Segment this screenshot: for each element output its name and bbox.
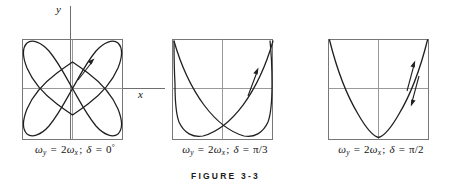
lissajous-panel-delta-pi-3: ωy = 2ωx; δ = π/3 xyxy=(150,0,300,194)
panel-caption-1: ωy = 2ωx; δ = 0° xyxy=(0,143,150,157)
caption-separator: ; xyxy=(78,143,83,155)
lissajous-figure-group: y x ωy = 2ωx; δ = 0° xyxy=(0,0,451,194)
caption-omega-x: 2ωx xyxy=(61,143,78,155)
lissajous-panel-delta-0: ωy = 2ωx; δ = 0° xyxy=(0,0,150,194)
caption-omega-x: 2ωx xyxy=(364,143,381,155)
figure-number-label: FIGURE 3-3 xyxy=(0,171,451,181)
caption-omega-y: ωy xyxy=(338,143,350,155)
lissajous-panel-delta-pi-2: ωy = 2ωx; δ = π/2 xyxy=(306,0,451,194)
caption-equals: = xyxy=(50,143,58,155)
caption-separator: ; xyxy=(381,143,386,155)
caption-equals-2: = xyxy=(398,143,406,155)
caption-equals: = xyxy=(197,143,205,155)
caption-omega-y: ωy xyxy=(35,143,47,155)
caption-delta-value: π/2 xyxy=(409,143,424,155)
caption-equals: = xyxy=(353,143,361,155)
plot-area-2 xyxy=(150,0,300,150)
direction-arrow-up-icon xyxy=(407,61,415,92)
caption-delta: δ xyxy=(86,143,91,155)
caption-delta: δ xyxy=(389,143,394,155)
caption-omega-x: 2ωx xyxy=(208,143,225,155)
panel-caption-3: ωy = 2ωx; δ = π/2 xyxy=(306,143,451,157)
plot-area-1 xyxy=(0,0,150,150)
plot-area-3 xyxy=(306,0,451,150)
caption-equals-2: = xyxy=(242,143,250,155)
caption-omega-y: ωy xyxy=(182,143,194,155)
caption-delta: δ xyxy=(233,143,238,155)
caption-delta-value: π/3 xyxy=(253,143,268,155)
caption-delta-value: 0° xyxy=(106,143,115,155)
caption-equals-2: = xyxy=(95,143,103,155)
caption-separator: ; xyxy=(225,143,230,155)
panel-caption-2: ωy = 2ωx; δ = π/3 xyxy=(150,143,300,157)
